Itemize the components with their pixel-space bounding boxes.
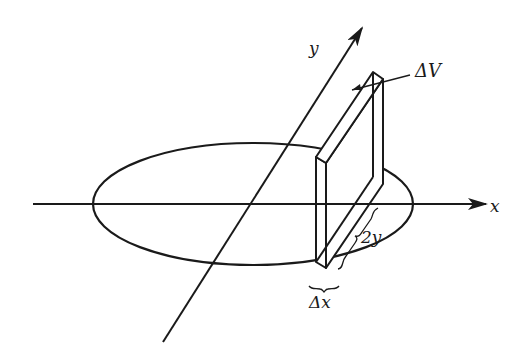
x-axis-label: x (490, 198, 500, 215)
delta-v-label: ΔV (415, 62, 441, 80)
delta-x-label: Δx (309, 294, 331, 311)
ellipse-slab-diagram (0, 0, 526, 359)
y-axis-label: y (309, 40, 319, 57)
two-y-label: 2y (361, 229, 381, 246)
